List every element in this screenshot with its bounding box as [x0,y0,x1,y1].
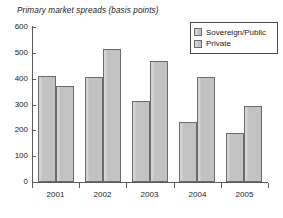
x-axis-label-2002: 2002 [79,190,126,199]
bar-2002-private [103,49,121,182]
y-axis-labels: 0100200300400500600 [0,0,28,218]
y-axis-tick-label: 500 [2,49,28,57]
bar-2004-private [197,77,215,182]
y-axis-tick-label: 200 [2,126,28,134]
bar-2001-private [56,86,74,182]
legend-item-sovereign-public: Sovereign/Public [194,27,273,38]
bar-2003-sovereign-public [132,101,150,182]
legend-label: Sovereign/Public [206,28,266,37]
legend-label: Private [206,39,231,48]
chart-title: Primary market spreads (basis points) [17,6,159,15]
legend-item-private: Private [194,38,273,49]
bar-2003-private [150,61,168,182]
bar-2002-sovereign-public [85,77,103,182]
bar-2004-sovereign-public [179,122,197,182]
y-axis-tick-label: 100 [2,152,28,160]
x-axis-label-2005: 2005 [221,190,268,199]
bar-2001-sovereign-public [38,76,56,182]
y-axis-tick-label: 600 [2,23,28,31]
x-axis-line [32,182,268,183]
x-axis-tick [32,183,33,188]
legend-swatch-icon [194,28,202,36]
x-axis-tick [79,183,80,188]
bar-2005-sovereign-public [226,133,244,182]
y-axis-tick-label: 400 [2,75,28,83]
bar-2005-private [244,106,262,182]
x-axis-tick [126,183,127,188]
y-axis-tick-label: 300 [2,101,28,109]
x-axis-tick [174,183,175,188]
chart-figure: Primary market spreads (basis points) 01… [0,0,283,218]
x-axis-tick [268,183,269,188]
x-axis-label-2004: 2004 [174,190,221,199]
x-axis-label-2003: 2003 [126,190,173,199]
legend-swatch-icon [194,40,202,48]
x-axis-label-2001: 2001 [32,190,79,199]
y-axis-tick-label: 0 [2,178,28,186]
chart-legend: Sovereign/PublicPrivate [190,22,278,54]
x-axis-tick [221,183,222,188]
